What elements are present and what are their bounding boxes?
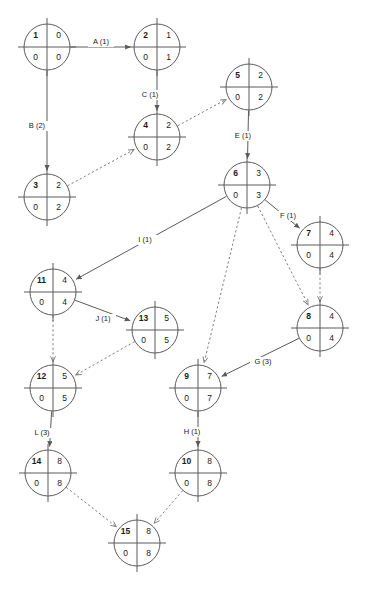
node-2[interactable]: 2101 (128, 18, 186, 76)
edge-6-9 (204, 208, 241, 362)
node-15-id: 15 (121, 526, 131, 536)
node-14[interactable]: 14808 (19, 444, 77, 502)
node-11-float: 0 (39, 297, 44, 307)
node-12-early: 5 (62, 371, 67, 381)
node-5[interactable]: 5202 (220, 58, 278, 116)
node-2-float: 0 (143, 52, 148, 62)
node-7-id: 7 (306, 228, 311, 238)
node-6-id: 6 (233, 168, 238, 178)
node-13-id: 13 (139, 313, 149, 323)
node-4-early: 2 (166, 120, 171, 130)
node-6-early: 3 (256, 168, 261, 178)
node-13[interactable]: 13505 (126, 301, 184, 359)
edge-g-label: G (3) (254, 357, 272, 366)
node-10-id: 10 (182, 456, 192, 466)
node-13-late: 5 (164, 335, 169, 345)
node-1-float: 0 (33, 52, 38, 62)
node-1[interactable]: 1000 (18, 18, 76, 76)
node-4-id: 4 (143, 120, 148, 130)
node-11-early: 4 (62, 275, 67, 285)
edge-a-label: A (1) (93, 37, 109, 46)
node-8-float: 0 (306, 333, 311, 343)
network-diagram: A (1)B (2)C (1)E (1)F (1)I (1)G (3)H (1)… (0, 0, 367, 592)
edge-13-12 (76, 342, 135, 375)
node-7-early: 4 (329, 228, 334, 238)
node-12-float: 0 (39, 393, 44, 403)
node-2-late: 1 (166, 52, 171, 62)
node-11-id: 11 (37, 275, 46, 285)
network-canvas: A (1)B (2)C (1)E (1)F (1)I (1)G (3)H (1)… (0, 0, 367, 592)
node-3-float: 0 (33, 202, 38, 212)
node-15[interactable]: 15808 (108, 514, 166, 572)
node-3[interactable]: 3202 (18, 168, 76, 226)
node-9-id: 9 (184, 371, 189, 381)
node-1-early: 0 (56, 30, 61, 40)
node-13-float: 0 (141, 335, 146, 345)
node-7-float: 0 (306, 250, 311, 260)
node-12[interactable]: 12505 (24, 359, 82, 417)
node-5-float: 0 (235, 92, 240, 102)
node-8-early: 4 (329, 311, 334, 321)
node-12-late: 5 (62, 393, 67, 403)
node-15-late: 8 (146, 548, 151, 558)
node-9-early: 7 (207, 371, 212, 381)
node-7[interactable]: 7404 (291, 216, 349, 274)
edge-3-4 (68, 150, 134, 186)
node-7-late: 4 (329, 250, 334, 260)
node-3-early: 2 (56, 180, 61, 190)
node-8[interactable]: 8404 (291, 299, 349, 357)
edge-c-label: C (1) (142, 90, 159, 99)
edge-14-15 (66, 488, 116, 527)
node-10-late: 8 (207, 478, 212, 488)
node-6-float: 0 (233, 190, 238, 200)
node-10-early: 8 (207, 456, 212, 466)
edge-h-label: H (1) (184, 427, 201, 436)
node-9-late: 7 (207, 393, 212, 403)
node-14-id: 14 (32, 456, 42, 466)
edge-e-label: E (1) (235, 131, 252, 140)
node-1-late: 0 (56, 52, 61, 62)
edge-f-label: F (1) (280, 211, 296, 220)
node-8-late: 4 (329, 333, 334, 343)
node-5-late: 2 (258, 92, 263, 102)
node-15-float: 0 (123, 548, 128, 558)
edge-10-15 (154, 491, 182, 523)
node-5-id: 5 (235, 70, 240, 80)
node-12-id: 12 (37, 371, 47, 381)
node-3-late: 2 (56, 202, 61, 212)
edge-l-label: L (3) (34, 428, 50, 437)
node-4[interactable]: 4202 (128, 108, 186, 166)
node-4-float: 0 (143, 142, 148, 152)
node-10[interactable]: 10808 (169, 444, 227, 502)
node-6-late: 3 (256, 190, 261, 200)
node-2-early: 1 (166, 30, 171, 40)
node-15-early: 8 (146, 526, 151, 536)
node-9[interactable]: 9707 (169, 359, 227, 417)
node-14-late: 8 (57, 478, 62, 488)
node-6[interactable]: 6303 (218, 156, 276, 214)
node-8-id: 8 (306, 311, 311, 321)
node-3-id: 3 (33, 180, 38, 190)
node-11-late: 4 (62, 297, 67, 307)
node-9-float: 0 (184, 393, 189, 403)
edge-j-label: J (1) (96, 314, 112, 323)
node-11[interactable]: 11404 (24, 263, 82, 321)
node-13-early: 5 (164, 313, 169, 323)
edge-b-label: B (2) (29, 121, 46, 130)
node-5-early: 2 (258, 70, 263, 80)
edge-4-5 (178, 100, 226, 126)
node-10-float: 0 (184, 478, 189, 488)
node-14-early: 8 (57, 456, 62, 466)
node-14-float: 0 (34, 478, 39, 488)
edge-i-label: I (1) (138, 235, 152, 244)
node-2-id: 2 (143, 30, 148, 40)
node-1-id: 1 (33, 30, 38, 40)
node-4-late: 2 (166, 142, 171, 152)
